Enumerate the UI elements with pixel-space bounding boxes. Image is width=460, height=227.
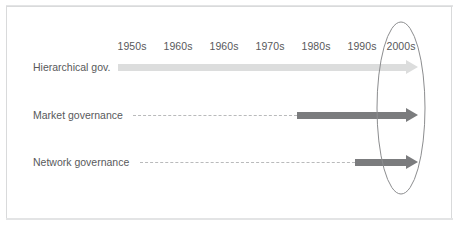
bar-network-governance [355, 159, 406, 166]
dashed-line-network-governance [140, 162, 355, 163]
decade-axis: 1950s 1960s 1960s 1970s 1980s 1990s 2000… [0, 39, 460, 55]
decade-label-2000s: 2000s [379, 39, 423, 53]
dashed-line-market-governance [133, 115, 297, 116]
decade-label-1970s: 1970s [248, 39, 292, 53]
decade-label-1980s: 1980s [294, 39, 338, 53]
decade-label-1960s-b: 1960s [202, 39, 246, 53]
bar-market-governance [297, 112, 406, 119]
track-market-governance [0, 106, 460, 124]
decade-label-1960s-a: 1960s [156, 39, 200, 53]
decade-label-1990s: 1990s [340, 39, 384, 53]
governance-timeline-figure: 1950s 1960s 1960s 1970s 1980s 1990s 2000… [0, 0, 460, 227]
arrowhead-market-governance [406, 108, 418, 122]
bar-hierarchical-governance [118, 64, 406, 71]
arrowhead-network-governance [406, 155, 418, 169]
decade-label-1950s: 1950s [110, 39, 154, 53]
frame-bottom-rule [6, 218, 453, 220]
track-network-governance [0, 153, 460, 171]
track-hierarchical-governance [0, 58, 460, 76]
arrowhead-hierarchical-governance [406, 60, 418, 74]
